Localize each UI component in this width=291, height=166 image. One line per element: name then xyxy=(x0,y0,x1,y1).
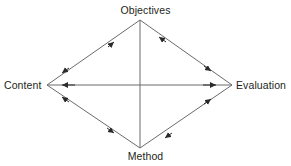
diagram-canvas: Objectives Content Evaluation Method xyxy=(0,0,291,166)
edge-content-method xyxy=(47,85,140,148)
edge-objectives-evaluation xyxy=(140,20,232,85)
edge-method-evaluation xyxy=(140,85,232,148)
node-label-evaluation: Evaluation xyxy=(236,79,286,91)
node-label-method: Method xyxy=(0,150,291,162)
arrowhead-toward-objectives-left xyxy=(108,42,114,47)
edge-content-objectives xyxy=(47,20,140,85)
arrowhead-toward-evaluation-lower xyxy=(204,99,211,104)
node-label-objectives: Objectives xyxy=(0,4,291,16)
arrowhead-toward-evaluation-upper xyxy=(204,66,211,71)
arrowhead-toward-method-left xyxy=(107,128,114,133)
arrowhead-toward-method-right xyxy=(165,133,172,138)
node-label-content: Content xyxy=(4,79,41,91)
